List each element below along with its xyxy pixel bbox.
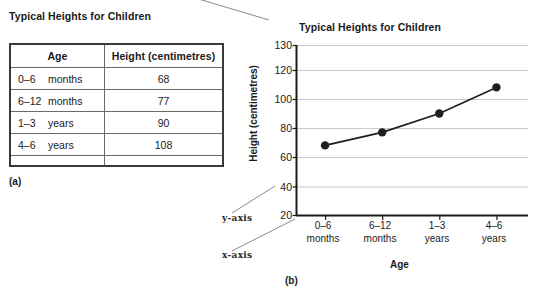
table-caption: Typical Heights for Children <box>9 10 151 22</box>
age-range: 0–6 <box>18 73 48 85</box>
age-unit: years <box>48 117 74 129</box>
x-axis-callout-label: x-axis <box>222 250 252 260</box>
cell-empty <box>10 156 105 167</box>
age-range: 6–12 <box>18 95 48 107</box>
figure-label-b: (b) <box>285 275 298 286</box>
y-axis-callout-label: y-axis <box>222 213 252 223</box>
leader-line-title <box>175 0 269 20</box>
cell-age: 0–6months <box>10 68 105 90</box>
cell-age: 6–12months <box>10 90 105 112</box>
figure-label-a: (a) <box>9 176 21 187</box>
leader-line-y-axis <box>232 186 275 213</box>
panel-b-chart-figure: Typical Heights for Children Height (cen… <box>240 0 537 298</box>
age-range: 1–3 <box>18 117 48 129</box>
age-range: 4–6 <box>18 139 48 151</box>
column-header-age: Age <box>10 44 105 68</box>
age-unit: months <box>48 95 82 107</box>
age-unit: years <box>48 139 74 151</box>
cell-age: 1–3years <box>10 112 105 134</box>
leader-line-x-axis <box>232 219 295 251</box>
age-unit: months <box>48 73 82 85</box>
cell-age: 4–6years <box>10 134 105 156</box>
